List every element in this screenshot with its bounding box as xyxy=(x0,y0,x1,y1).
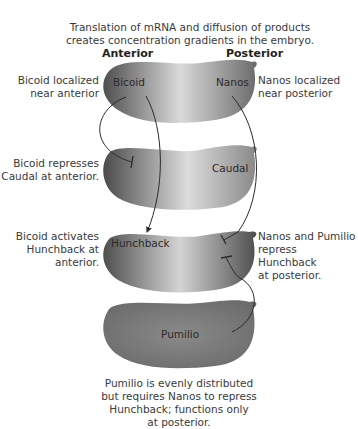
caption-line: but requires Nanos to repress xyxy=(79,390,279,403)
annotation-line: near anterior xyxy=(0,87,99,100)
nanos-pumilio-annotation: Nanos and Pumilio repress Hunchback at p… xyxy=(258,230,358,282)
annotation-line: Bicoid activates xyxy=(0,230,99,243)
hunchback-label: Hunchback xyxy=(111,237,170,249)
caption-line: Hunchback; functions only xyxy=(79,403,279,416)
annotation-line: at posterior. xyxy=(258,269,358,282)
nanos-localized-annotation: Nanos localized near posterior xyxy=(258,74,340,100)
figure-title: Translation of mRNA and diffusion of pro… xyxy=(40,21,340,47)
annotation-line: repress Hunchback xyxy=(258,243,358,269)
title-line-2: creates concentration gradients in the e… xyxy=(40,34,340,47)
anterior-label: Anterior xyxy=(102,47,153,60)
annotation-line: Caudal at anterior. xyxy=(0,170,99,183)
pumilio-label: Pumilio xyxy=(161,328,199,340)
annotation-line: Nanos localized xyxy=(258,74,340,87)
annotation-line: anterior. xyxy=(0,256,99,269)
annotation-line: Bicoid represses xyxy=(0,157,99,170)
bicoid-activates-annotation: Bicoid activates Hunchback at anterior. xyxy=(0,230,99,269)
embryo-2 xyxy=(103,145,257,210)
bicoid-label: Bicoid xyxy=(113,76,145,88)
embryo-1 xyxy=(103,60,257,123)
caption-line: Pumilio is evenly distributed xyxy=(79,377,279,390)
bicoid-represses-annotation: Bicoid represses Caudal at anterior. xyxy=(0,157,99,183)
annotation-line: Hunchback at xyxy=(0,243,99,256)
nanos-label: Nanos xyxy=(216,76,249,88)
posterior-label: Posterior xyxy=(226,47,283,60)
title-line-1: Translation of mRNA and diffusion of pro… xyxy=(40,21,340,34)
annotation-line: Bicoid localized xyxy=(0,74,99,87)
bicoid-localized-annotation: Bicoid localized near anterior xyxy=(0,74,99,100)
annotation-line: Nanos and Pumilio xyxy=(258,230,358,243)
caption-line: at posterior. xyxy=(79,416,279,429)
annotation-line: near posterior xyxy=(258,87,340,100)
caudal-label: Caudal xyxy=(212,162,248,174)
pumilio-caption: Pumilio is evenly distributed but requir… xyxy=(79,377,279,429)
